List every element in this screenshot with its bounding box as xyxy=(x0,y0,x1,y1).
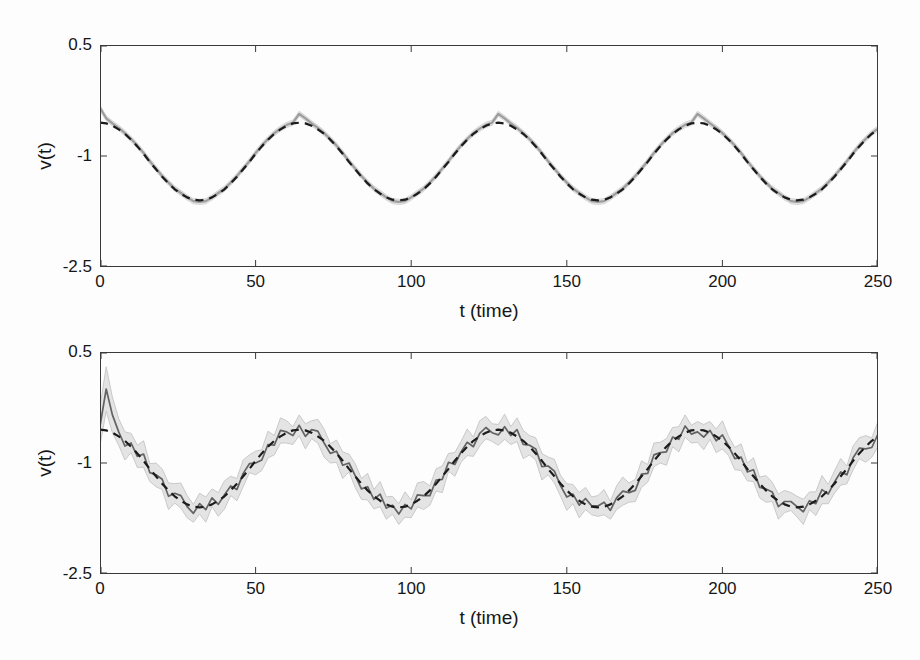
y-tick-label: -2.5 xyxy=(0,564,92,584)
x-tick-label: 150 xyxy=(553,272,581,292)
y-tick-label: -2.5 xyxy=(0,257,92,277)
confidence-band xyxy=(100,367,878,525)
axes-frame xyxy=(101,353,878,574)
x-tick-label: 200 xyxy=(708,272,736,292)
true-signal-line xyxy=(100,123,878,201)
x-tick-label: 150 xyxy=(553,579,581,599)
x-tick-label: 100 xyxy=(397,579,425,599)
y-tick-label: -1 xyxy=(0,453,92,473)
x-tick-label: 250 xyxy=(864,579,892,599)
figure: v(t) t (time) v(t) t (time) 050100150200… xyxy=(0,0,920,660)
x-tick-label: 0 xyxy=(95,579,104,599)
x-axis-label-top: t (time) xyxy=(459,300,518,322)
confidence-band xyxy=(100,105,878,204)
x-tick-label: 50 xyxy=(246,579,265,599)
x-tick-label: 200 xyxy=(708,579,736,599)
plot-canvas-top xyxy=(100,45,878,267)
y-tick-label: 0.5 xyxy=(0,35,92,55)
plot-canvas-bottom xyxy=(100,352,878,574)
x-axis-label-bottom: t (time) xyxy=(459,607,518,629)
x-tick-label: 0 xyxy=(95,272,104,292)
x-tick-label: 250 xyxy=(864,272,892,292)
y-tick-label: -1 xyxy=(0,146,92,166)
bottom-panel-svg xyxy=(100,352,878,574)
band-upper-edge xyxy=(100,105,878,199)
top-panel-svg xyxy=(100,45,878,267)
axes-frame xyxy=(101,46,878,267)
x-tick-label: 100 xyxy=(397,272,425,292)
x-tick-label: 50 xyxy=(246,272,265,292)
y-tick-label: 0.5 xyxy=(0,342,92,362)
